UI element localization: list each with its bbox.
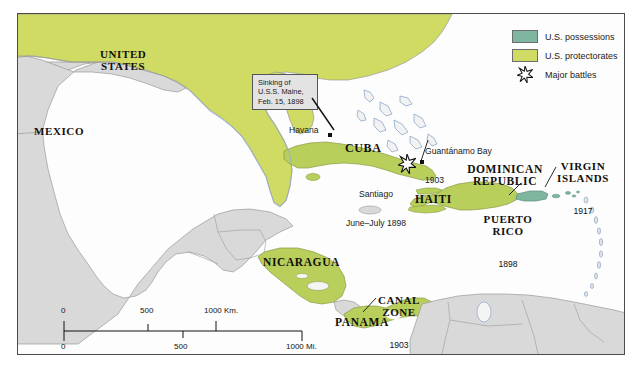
- callout-line-2: U.S.S. Maine,: [258, 87, 313, 96]
- map-root: UNITED STATES MEXICO CUBA Havana Santiag…: [0, 0, 640, 370]
- lake-managua: [296, 273, 308, 278]
- vieques-island: [552, 194, 560, 198]
- scale-mi-tick-0: 0: [61, 342, 65, 351]
- virgin-islands-leader-line: [542, 167, 560, 189]
- legend-item-possessions: U.S. possessions: [512, 28, 624, 45]
- scale-km-tick-0: 0: [61, 306, 65, 315]
- isla-juventud: [306, 174, 320, 181]
- canal-zone-leader-line: [360, 298, 380, 314]
- legend-swatch-possessions: [512, 30, 538, 43]
- guantanamo-leader-line: [416, 140, 434, 164]
- legend-swatch-protectorates: [512, 49, 538, 62]
- legend-item-protectorates: U.S. protectorates: [512, 47, 624, 64]
- scale-bar-graphic: [58, 314, 308, 344]
- star-icon-santiago: [398, 154, 416, 174]
- star-icon: [517, 66, 533, 83]
- scale-mi-tick-1000: 1000 Mi.: [286, 342, 317, 351]
- callout-uss-maine: Sinking of U.S.S. Maine, Feb. 15, 1898: [252, 74, 318, 110]
- legend-star-cell: [512, 68, 538, 81]
- scale-km-tick-1000: 1000 Km.: [204, 306, 238, 315]
- callout-line-1: Sinking of: [258, 78, 313, 87]
- jamaica: [359, 206, 381, 214]
- lake-nicaragua: [307, 282, 329, 291]
- puerto-rico-leader-line: [505, 181, 525, 197]
- scale-mi-tick-500: 500: [174, 342, 187, 351]
- legend-label-battles: Major battles: [545, 70, 597, 80]
- scale-bar: 0 500 1000 Km. 0 500 1000 Mi.: [58, 314, 308, 348]
- legend-item-battles: Major battles: [512, 66, 624, 83]
- map-legend: U.S. possessions U.S. protectorates Majo…: [512, 28, 624, 85]
- legend-label-possessions: U.S. possessions: [545, 32, 615, 42]
- lake-maracaibo: [477, 302, 491, 322]
- callout-line-3: Feb. 15, 1898: [258, 97, 313, 106]
- scale-km-tick-500: 500: [140, 306, 153, 315]
- legend-label-protectorates: U.S. protectorates: [545, 51, 618, 61]
- callout-leader-line: [310, 96, 344, 136]
